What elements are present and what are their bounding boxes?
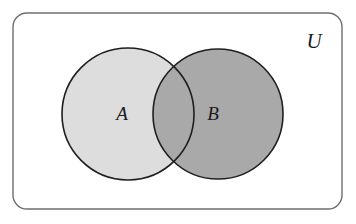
set-a-label: A xyxy=(114,103,128,124)
venn-diagram-canvas: A B U xyxy=(0,0,356,224)
universal-set-label: U xyxy=(306,29,323,53)
set-b-label: B xyxy=(207,103,219,124)
venn-diagram-figure: A B U xyxy=(0,0,356,224)
